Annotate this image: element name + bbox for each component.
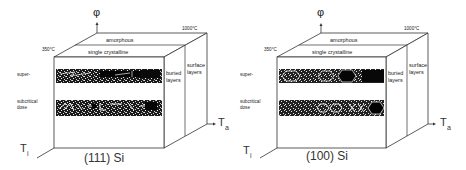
ta-axis-label: T <box>218 116 225 128</box>
figure-canvas: φ amorphous single crystalline 350°C 100… <box>0 0 466 170</box>
row-label-subcritical: subcritical <box>240 99 260 104</box>
phi-axis-label: φ <box>317 6 324 18</box>
ti-axis-subscript: i <box>27 150 29 157</box>
panel-right: φ amorphous single crystalline 350°C 100… <box>240 6 451 163</box>
temp-high-label: 1000°C <box>182 26 198 31</box>
phi-axis-arrow-icon <box>96 22 99 25</box>
side-label-surface-layers: layers <box>409 69 424 75</box>
ti-axis-label: T <box>243 144 250 156</box>
temp-low-label: 350°C <box>42 47 56 52</box>
row-label-dose: dose <box>240 105 250 110</box>
ti-axis-label: T <box>20 142 27 154</box>
ta-axis-label: T <box>440 116 447 128</box>
temp-low-label: 350°C <box>264 47 278 52</box>
dark-region <box>362 70 384 82</box>
side-label-surface-layers: layers <box>187 69 202 75</box>
side-label-buried-layers: layers <box>388 77 403 83</box>
ta-axis-subscript: a <box>225 124 229 131</box>
ti-axis-line <box>37 148 54 158</box>
ti-axis-subscript: i <box>250 152 252 159</box>
panel-caption: (100) Si <box>306 149 348 163</box>
layer-label-amorphous: amorphous <box>106 37 134 43</box>
phi-axis-arrow-icon <box>320 23 323 26</box>
panel-caption: (111) Si <box>84 151 124 165</box>
layer-label-single-crystalline: single crystalline <box>88 49 128 55</box>
temp-high-label: 1000°C <box>404 26 420 31</box>
ti-axis-line <box>260 148 277 158</box>
panel-left: φ amorphous single crystalline 350°C 100… <box>17 6 229 165</box>
dark-streak <box>140 70 160 78</box>
row-label-dose: dose <box>17 105 27 110</box>
ta-axis-subscript: a <box>447 124 451 131</box>
row-label-super: super- <box>240 72 253 77</box>
row-label-super: super- <box>17 72 30 77</box>
side-label-buried: buried <box>388 70 403 76</box>
layer-label-single-crystalline: single crystalline <box>312 49 352 55</box>
dark-streak <box>145 102 157 110</box>
hex-cell <box>368 102 384 114</box>
layer-label-amorphous: amorphous <box>330 37 358 43</box>
dark-blob <box>92 104 97 109</box>
phi-axis-label: φ <box>93 6 100 18</box>
side-label-surface: surface <box>409 62 427 68</box>
ta-axis-arrow-icon <box>433 123 436 126</box>
row-label-subcritical: subcritical <box>17 99 37 104</box>
ta-axis-arrow-icon <box>213 123 216 126</box>
side-label-surface: surface <box>187 62 205 68</box>
side-label-buried-layers: layers <box>166 77 181 83</box>
side-label-buried: buried <box>166 70 181 76</box>
hex-cell <box>338 70 356 82</box>
